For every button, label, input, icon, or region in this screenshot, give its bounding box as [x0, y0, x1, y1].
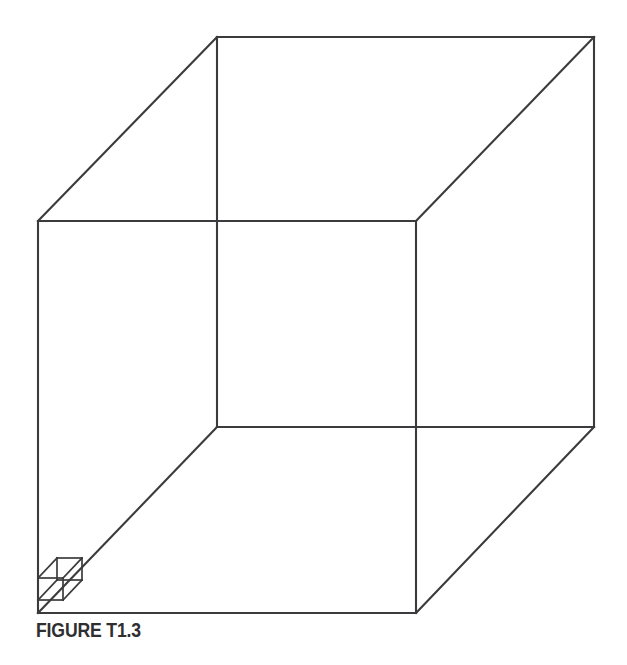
- large-cube-edge-depth-top-right: [416, 37, 594, 221]
- large-cube-depth-edges: [38, 37, 594, 613]
- small-cube: [38, 558, 82, 600]
- large-cube-edge-depth-bottom-left: [38, 427, 217, 613]
- large-cube-edge-depth-top-left: [38, 37, 217, 221]
- large-cube-edge-depth-bottom-right: [416, 427, 594, 613]
- small-cube-edge-depth-top-left: [38, 558, 57, 578]
- small-cube-edge-depth-top-right: [63, 558, 82, 578]
- small-cube-depth-edges: [38, 558, 82, 600]
- figure-page: FIGURE T1.3: [0, 0, 627, 665]
- cube-diagram: [0, 0, 627, 665]
- figure-caption: FIGURE T1.3: [36, 617, 141, 643]
- large-cube: [38, 37, 594, 613]
